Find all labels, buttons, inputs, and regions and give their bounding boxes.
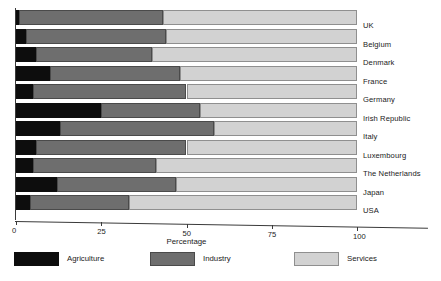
bar-segment-industry [26, 29, 166, 44]
bar-segment-services [152, 47, 357, 62]
x-axis-line [15, 221, 428, 229]
legend-label: Services [347, 254, 377, 263]
bar-row [16, 66, 357, 81]
bar-row [16, 84, 357, 99]
bar-segment-services [200, 103, 357, 118]
bar-row [16, 103, 357, 118]
category-label: Denmark [363, 58, 395, 67]
bar-segment-agriculture [16, 158, 33, 173]
bar-segment-agriculture [16, 84, 33, 99]
category-label: Italy [363, 132, 377, 141]
legend-label: Agriculture [67, 254, 104, 263]
bar-row [16, 29, 357, 44]
x-tick [101, 222, 102, 226]
bar-row [16, 10, 357, 25]
x-tick [272, 225, 273, 229]
bar-segment-agriculture [16, 121, 60, 136]
bar-segment-services [166, 29, 357, 44]
bar-segment-agriculture [16, 177, 57, 192]
x-tick [187, 224, 188, 228]
category-label: Japan [363, 188, 384, 197]
bar-segment-agriculture [16, 66, 50, 81]
bar-segment-industry [30, 195, 129, 210]
bar-segment-agriculture [16, 140, 36, 155]
bar-segment-services [163, 10, 357, 25]
x-tick [357, 227, 358, 231]
bar-row [16, 121, 357, 136]
category-label: Irish Republic [363, 114, 410, 123]
category-label: Germany [363, 95, 395, 104]
bar-row [16, 177, 357, 192]
category-label: France [363, 77, 387, 86]
bar-segment-industry [33, 84, 186, 99]
bar-row [16, 140, 357, 155]
bar-segment-industry [60, 121, 213, 136]
bar-row [16, 195, 357, 210]
category-label: UK [363, 21, 374, 30]
legend-label: Industry [203, 254, 231, 263]
bar-segment-industry [50, 66, 180, 81]
stacked-bar-chart: 0255075100 Percentage AgricultureIndustr… [0, 0, 441, 281]
x-tick [16, 221, 17, 225]
bar-segment-industry [101, 103, 200, 118]
bar-segment-agriculture [16, 29, 26, 44]
bar-segment-industry [36, 140, 186, 155]
legend-swatch-agriculture [14, 252, 59, 266]
category-label: The Netherlands [363, 169, 421, 178]
bar-segment-agriculture [16, 103, 101, 118]
legend-swatch-industry [150, 252, 195, 266]
bar-segment-industry [57, 177, 176, 192]
bar-segment-services [187, 140, 358, 155]
bar-segment-services [180, 66, 357, 81]
bar-segment-services [176, 177, 357, 192]
bar-segment-industry [36, 47, 152, 62]
plot-area [16, 8, 357, 216]
bar-segment-industry [33, 158, 156, 173]
bar-segment-services [187, 84, 358, 99]
bar-row [16, 47, 357, 62]
bar-segment-services [214, 121, 357, 136]
bar-segment-agriculture [16, 47, 36, 62]
category-label: Belgium [363, 40, 391, 49]
legend-swatch-services [294, 252, 339, 266]
bar-row [16, 158, 357, 173]
x-axis-label: Percentage [16, 237, 357, 246]
category-label: USA [363, 206, 379, 215]
bar-segment-agriculture [16, 195, 30, 210]
bar-segment-services [156, 158, 357, 173]
x-tick-label: 0 [12, 226, 16, 235]
bar-segment-industry [19, 10, 162, 25]
x-tick-label: 25 [97, 227, 105, 236]
chart-legend: AgricultureIndustryServices [14, 252, 434, 272]
category-label: Luxembourg [363, 151, 406, 160]
bar-segment-services [129, 195, 357, 210]
